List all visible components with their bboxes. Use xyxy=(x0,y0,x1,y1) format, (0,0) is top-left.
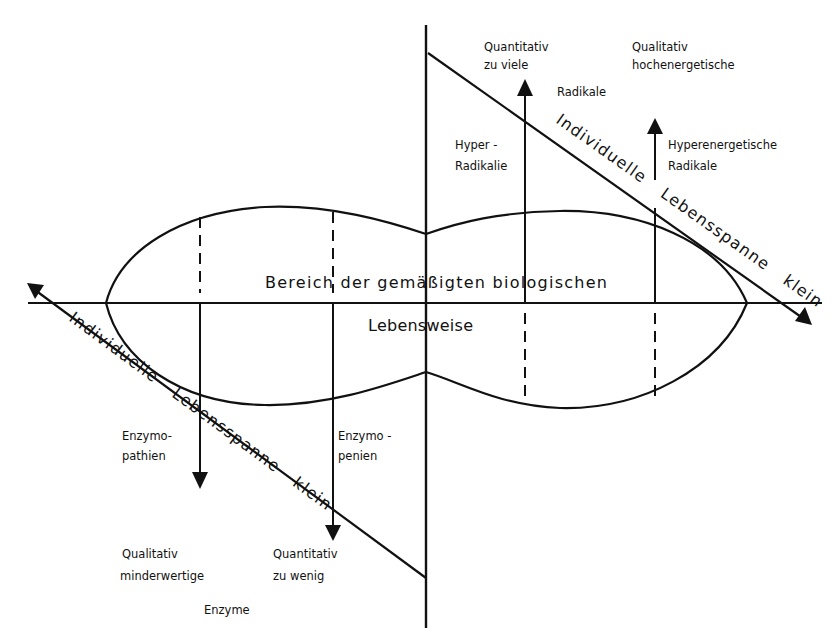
lower-diagonal-label-word2: Lebensspanne xyxy=(169,384,285,476)
hyper-radikalie-arrowhead-icon xyxy=(517,79,533,96)
enzymopenien-arrowhead-icon xyxy=(325,525,341,541)
hyperenergetische-line2: Radikale xyxy=(668,159,717,173)
upper-diagonal-arrowhead-icon xyxy=(795,307,812,325)
hyper-radikalie-line2: Radikalie xyxy=(455,159,507,173)
lower-diagonal-arrowhead-icon xyxy=(27,283,44,299)
lower-enzyme-label: Enzyme xyxy=(204,603,250,617)
upper-quantitative-line1: Quantitativ xyxy=(484,40,549,54)
center-region-label-line1: Bereich der gemäßigten biologischen xyxy=(265,273,607,292)
lower-diagonal-label-word3: klein xyxy=(289,473,336,514)
hyperenergetische-line1: Hyperenergetische xyxy=(668,138,777,152)
upper-radikale-label: Radikale xyxy=(557,85,606,99)
enzymopathien-line2: pathien xyxy=(122,449,166,463)
lower-qualitative-line2: minderwertige xyxy=(120,569,204,583)
lower-quantitative-line1: Quantitativ xyxy=(273,547,338,561)
upper-quantitative-line2: zu viele xyxy=(484,58,528,72)
enzymopathien-line1: Enzymo- xyxy=(122,429,172,443)
upper-diagonal-label-word3: klein xyxy=(780,270,827,311)
hyperenergetische-arrowhead-icon xyxy=(647,118,663,134)
upper-qualitative-line1: Qualitativ xyxy=(632,40,688,54)
lower-diagonal-label-word1: Individuelle xyxy=(66,308,163,387)
lower-quantitative-line2: zu wenig xyxy=(273,569,324,583)
center-region-label-line2: Lebensweise xyxy=(368,316,473,335)
hyper-radikalie-line1: Hyper - xyxy=(455,138,497,152)
upper-qualitative-line2: hochenergetische xyxy=(632,58,735,72)
enzymopenien-line2: penien xyxy=(338,449,377,463)
lower-qualitative-line1: Qualitativ xyxy=(122,547,178,561)
lifespan-diagram: Bereich der gemäßigten biologischen Lebe… xyxy=(0,0,832,644)
enzymopenien-line1: Enzymo - xyxy=(338,429,391,443)
enzymopathien-arrowhead-icon xyxy=(192,472,208,489)
